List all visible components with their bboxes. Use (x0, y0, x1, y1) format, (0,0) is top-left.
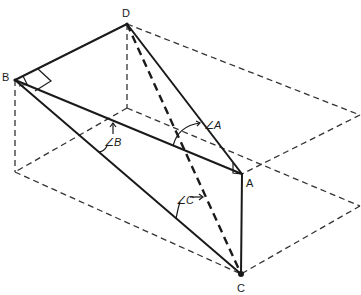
vertex-label-b: B (2, 71, 9, 83)
angle-label-c: ∠C (176, 194, 194, 206)
vertex-dots (13, 22, 244, 277)
angle-label-a: ∠A (204, 119, 221, 131)
vertex-dot-c (238, 271, 244, 277)
vertex-dot-d (125, 22, 128, 25)
box-edge-hidden-bottomright (127, 108, 360, 206)
vertex-label-d: D (122, 7, 130, 19)
box-edge-topright-a (242, 115, 360, 174)
vertex-label-a: A (246, 177, 254, 189)
vertex-dot-b (13, 78, 16, 81)
bounding-box (15, 24, 360, 274)
right-angle-marker-b-large (35, 69, 51, 91)
edge-bd (15, 24, 127, 80)
angle-label-b: ∠B (104, 136, 121, 148)
box-edge-bottomleft-c (15, 172, 241, 274)
tetrahedron-diagram: D B A C ∠A ∠B ∠C (0, 0, 361, 295)
edge-ac (241, 174, 242, 274)
box-edge-bottomright-c (241, 206, 360, 274)
vertex-label-c: C (237, 282, 245, 294)
tetrahedron-edges (15, 24, 242, 274)
